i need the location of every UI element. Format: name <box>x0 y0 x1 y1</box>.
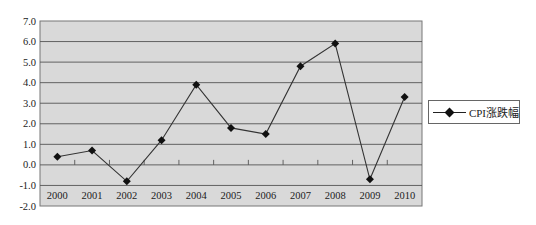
y-tick-label: 2.0 <box>23 118 36 129</box>
legend: CPI涨跌幅 <box>428 100 520 124</box>
x-tick-label: 2006 <box>255 190 276 201</box>
y-tick-label: 1.0 <box>23 139 36 150</box>
legend-label: CPI涨跌幅 <box>469 104 519 120</box>
x-tick-label: 2002 <box>116 190 137 201</box>
x-tick-label: 2004 <box>186 190 208 201</box>
x-tick-label: 2003 <box>151 190 172 201</box>
y-tick-label: 3.0 <box>23 98 36 109</box>
x-tick-label: 2000 <box>47 190 68 201</box>
x-tick-label: 2007 <box>290 190 311 201</box>
y-tick-label: 7.0 <box>23 16 36 27</box>
x-tick-label: 2005 <box>221 190 242 201</box>
y-tick-label: 6.0 <box>23 36 36 47</box>
x-axis-tick-labels: 2000200120022003200420052006200720082009… <box>47 190 415 201</box>
x-tick-label: 2010 <box>394 190 415 201</box>
y-tick-label: -2.0 <box>19 201 36 212</box>
y-tick-label: -1.0 <box>19 180 36 191</box>
y-tick-label: 0.0 <box>23 159 36 170</box>
legend-line-marker-icon <box>433 105 466 119</box>
plot-area <box>40 21 422 206</box>
y-axis-tick-labels: 7.06.05.04.03.02.01.00.0-1.0-2.0 <box>19 16 36 212</box>
y-tick-label: 5.0 <box>23 57 36 68</box>
x-tick-label: 2009 <box>359 190 380 201</box>
y-tick-label: 4.0 <box>23 77 36 88</box>
x-tick-label: 2001 <box>82 190 103 201</box>
x-tick-label: 2008 <box>325 190 346 201</box>
